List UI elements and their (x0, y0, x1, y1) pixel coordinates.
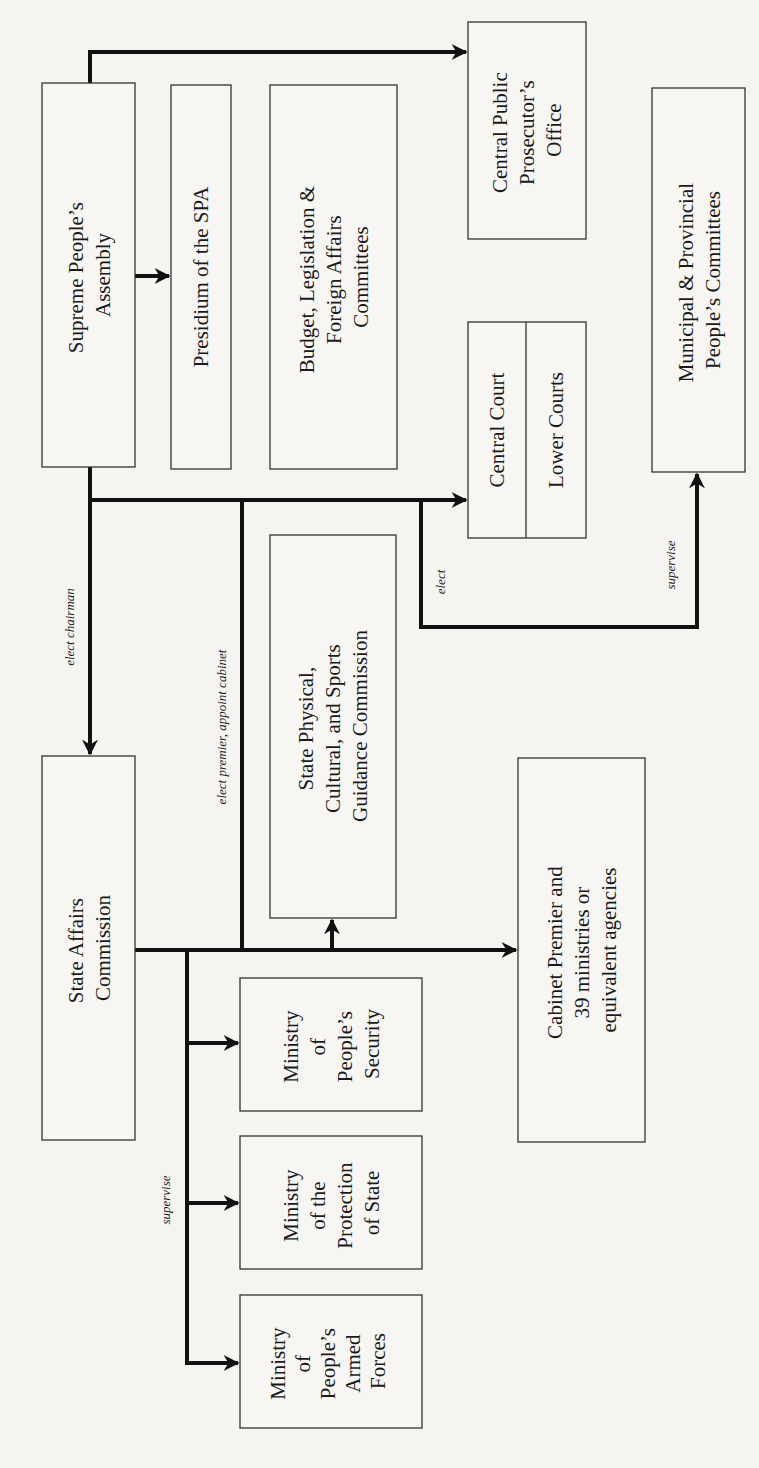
node-label: Presidium of the SPA (189, 186, 213, 367)
node-courts: Central Court Lower Courts (468, 322, 586, 538)
edge-label-supervise-local: supervise (663, 540, 678, 589)
org-chart: Supreme People’s Assembly Presidium of t… (0, 0, 759, 1468)
node-committees: Budget, Legislation & Foreign Affairs Co… (270, 85, 397, 469)
node-state-affairs-commission: State Affairs Commission (42, 756, 135, 1140)
node-supreme-peoples-assembly: Supreme People’s Assembly (42, 83, 135, 467)
node-label: Ministry of People’s Armed Forces (266, 1322, 390, 1400)
connector-spa-prosecutor (90, 52, 466, 83)
edge-label-elect-premier: elect premier, appoint cabinet (214, 649, 229, 804)
node-ministry-armed-forces: Ministry of People’s Armed Forces (240, 1295, 422, 1428)
connector-spa-trunk (90, 467, 466, 500)
edge-label-supervise-ministries: supervise (158, 1175, 173, 1224)
node-presidium: Presidium of the SPA (171, 85, 231, 469)
node-ministry-peoples-security: Ministry of People’s Security (240, 978, 422, 1111)
node-prosecutor: Central Public Prosecutor’s Office (468, 22, 586, 239)
node-label: Cabinet Premier and 39 ministries or equ… (543, 861, 621, 1039)
node-sports-commission: State Physical, Cultural, and Sports Gui… (270, 535, 396, 918)
node-label-lower-courts: Lower Courts (544, 372, 568, 488)
edge-label-elect-chairman: elect chairman (62, 588, 77, 666)
node-label-central-court: Central Court (485, 372, 509, 487)
node-cabinet: Cabinet Premier and 39 ministries or equ… (518, 758, 645, 1142)
edge-label-elect: elect (433, 569, 448, 594)
node-ministry-protection-of-state: Ministry of the Protection of State (240, 1136, 422, 1269)
node-municipal-committees: Municipal & Provincial People’s Committe… (652, 88, 745, 472)
